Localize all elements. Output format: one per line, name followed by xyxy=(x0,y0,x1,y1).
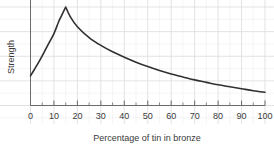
x-tick-label: 0 xyxy=(28,111,33,121)
x-axis-title: Percentage of tin in bronze xyxy=(93,133,201,143)
chart-figure: 0102030405060708090100 Percentage of tin… xyxy=(0,0,274,158)
x-tick-label: 40 xyxy=(119,111,129,121)
x-tick-label: 30 xyxy=(96,111,106,121)
x-tick-label: 100 xyxy=(257,111,272,121)
x-tick-label: 60 xyxy=(166,111,176,121)
y-axis-title: Strength xyxy=(6,40,16,74)
x-tick-label: 80 xyxy=(213,111,223,121)
strength-vs-tin-line-chart: 0102030405060708090100 Percentage of tin… xyxy=(0,0,274,158)
x-tick-label: 10 xyxy=(49,111,59,121)
x-tick-label: 90 xyxy=(237,111,247,121)
x-tick-label: 50 xyxy=(143,111,153,121)
x-tick-label: 20 xyxy=(72,111,82,121)
x-tick-label: 70 xyxy=(190,111,200,121)
